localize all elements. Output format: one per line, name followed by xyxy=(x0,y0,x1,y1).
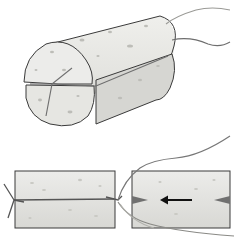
front-face-lower xyxy=(26,85,94,126)
illustration xyxy=(0,0,236,237)
sponge-side-view-right xyxy=(118,136,234,236)
sponge-side-view-left xyxy=(4,171,122,228)
sponge-cylinder-top xyxy=(24,8,230,126)
